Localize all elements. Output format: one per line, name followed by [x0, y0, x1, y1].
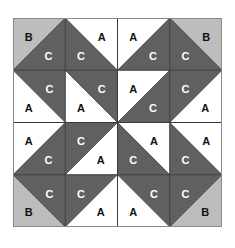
triangle-label: A — [97, 206, 105, 218]
triangle-label: B — [25, 206, 33, 218]
quilt-svg: BCACACBCCACAACCAACCAACACCBCACACB — [13, 18, 222, 227]
triangle-label: C — [150, 188, 158, 200]
quilt-cell: AC — [118, 70, 170, 122]
quilt-cell: CA — [65, 175, 117, 227]
quilt-cell: AC — [118, 18, 170, 70]
triangle-label: A — [201, 102, 209, 114]
triangle-label: C — [46, 188, 54, 200]
quilt-cell: BC — [13, 18, 65, 70]
quilt-diagram: BCACACBCCACAACCAACCAACACCBCACACB — [13, 18, 222, 227]
quilt-cell: CA — [170, 70, 222, 122]
triangle-label: C — [45, 154, 53, 166]
quilt-cell: CA — [13, 70, 65, 122]
quilt-cell: AC — [118, 123, 170, 175]
triangle-label: C — [181, 83, 189, 95]
triangle-label: C — [181, 50, 189, 62]
triangle-label: A — [129, 206, 137, 218]
triangle-label: C — [98, 83, 106, 95]
triangle-label: C — [181, 154, 189, 166]
triangle-label: C — [149, 50, 157, 62]
triangle-label: C — [181, 188, 189, 200]
triangle-label: A — [129, 31, 137, 43]
triangle-label: C — [77, 50, 85, 62]
quilt-cell: AC — [13, 123, 65, 175]
triangle-label: A — [97, 154, 105, 166]
quilt-cell: CB — [170, 175, 222, 227]
triangle-label: A — [25, 102, 33, 114]
triangle-label: A — [77, 102, 85, 114]
triangle-label: B — [202, 31, 210, 43]
quilt-cell: CA — [65, 123, 117, 175]
triangle-label: C — [46, 83, 54, 95]
triangle-label: A — [129, 83, 137, 95]
quilt-cell: CB — [13, 175, 65, 227]
triangle-label: C — [149, 102, 157, 114]
triangle-label: A — [150, 135, 158, 147]
quilt-cell: AC — [65, 18, 117, 70]
quilt-cell: CA — [65, 70, 117, 122]
triangle-label: C — [129, 154, 137, 166]
triangle-label: A — [202, 135, 210, 147]
triangle-label: C — [77, 188, 85, 200]
triangle-label: C — [45, 50, 53, 62]
quilt-cell: BC — [170, 18, 222, 70]
quilt-cell: AC — [170, 123, 222, 175]
triangle-label: A — [25, 135, 33, 147]
triangle-label: B — [25, 31, 33, 43]
triangle-label: B — [201, 206, 209, 218]
triangle-label: C — [77, 135, 85, 147]
quilt-cell: CA — [118, 175, 170, 227]
triangle-label: A — [98, 31, 106, 43]
